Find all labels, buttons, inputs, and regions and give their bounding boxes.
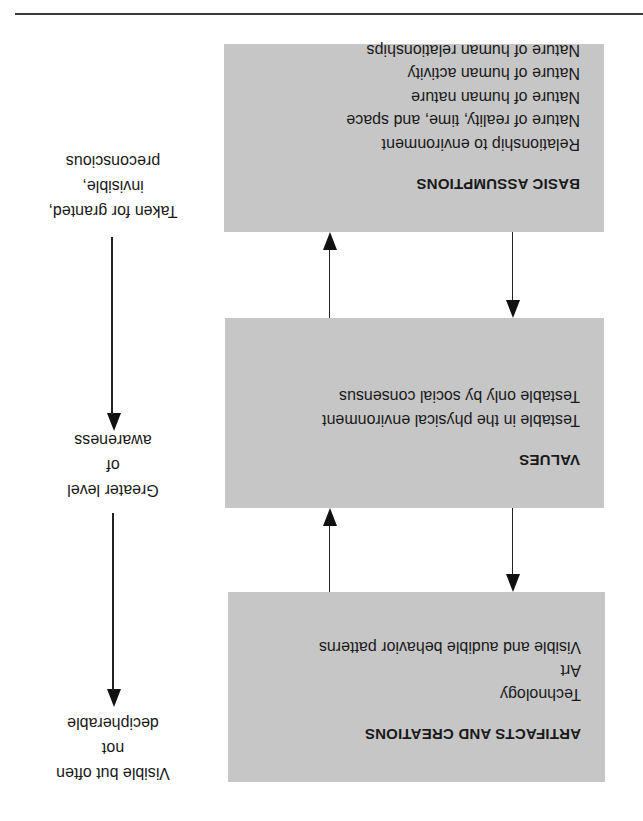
scale-line [112,237,114,415]
arrow-down-icon [107,413,121,431]
basic-assumptions-title: BASIC ASSUMPTIONS [224,174,580,194]
awareness-label-visible: Visible but often not decipherable [23,711,203,786]
basic-assumptions-item: Nature of human activity [224,62,580,86]
arrow-up-icon [506,300,520,318]
values-title: VALUES [225,450,580,470]
connector-line-up [512,232,514,300]
awareness-label-greater: Greater level of awareness [23,428,203,503]
label-line: of [23,453,203,478]
values-item: Testable only by social consensus [225,385,580,409]
basic-assumptions-item: Nature of reality, time, and space [224,109,580,133]
culture-levels-diagram: ARTIFACTS AND CREATIONS Technology Art V… [0,0,643,821]
artifacts-item: Art [228,659,581,683]
artifacts-item: Visible and audible behavior patterns [228,636,581,660]
label-line: awareness [23,428,203,453]
basic-assumptions-item: Nature of human nature [224,86,580,110]
connector-line-down [329,250,331,318]
arrow-down-icon [323,508,337,526]
awareness-label-taken: Taken for granted, invisible, preconscio… [23,149,203,224]
connector-line-up [512,508,514,574]
scale-line [113,513,115,691]
label-line: Greater level [23,478,203,503]
arrow-down-icon [323,232,337,250]
label-line: Visible but often [23,761,203,786]
label-line: not [23,736,203,761]
label-line: invisible, [23,174,203,199]
values-box: VALUES Testable in the physical environm… [225,318,604,508]
label-line: decipherable [23,711,203,736]
label-line: preconscious [23,149,203,174]
connector-line-down [329,526,331,592]
top-rule [15,13,643,15]
artifacts-title: ARTIFACTS AND CREATIONS [228,724,581,744]
label-line: Taken for granted, [23,199,203,224]
artifacts-box: ARTIFACTS AND CREATIONS Technology Art V… [228,592,605,782]
values-item: Testable in the physical environment [225,409,580,433]
artifacts-item: Technology [228,683,581,707]
basic-assumptions-box: BASIC ASSUMPTIONS Relationship to enviro… [224,44,604,232]
basic-assumptions-item: Relationship to environment [224,133,580,157]
arrow-up-icon [506,574,520,592]
basic-assumptions-item: Nature of human relationships [224,39,580,63]
arrow-down-icon [107,689,121,707]
